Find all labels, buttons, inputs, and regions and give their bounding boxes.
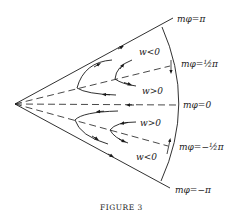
dashed-ray-zero: [15, 104, 177, 105]
trajectory-lower-small: [110, 122, 136, 143]
region-label-lower-outer: w<0: [136, 152, 157, 162]
boundary-label-lower-half: mφ=−½π: [179, 142, 225, 152]
boundary-label-top: mφ=π: [177, 14, 206, 24]
tick-lower-arc-icon: [167, 140, 170, 154]
arrow-lower-small-a-icon: [122, 123, 128, 124]
region-label-upper-outer: w<0: [139, 47, 160, 57]
region-label-lower-inner: w>0: [140, 118, 161, 128]
trajectory-upper-small: [115, 60, 136, 86]
boundary-label-zero: mφ=0: [183, 100, 211, 110]
dashed-ray-upper: [15, 66, 170, 104]
boundary-label-bottom: mφ=−π: [175, 185, 212, 195]
figure-caption: FIGURE 3: [100, 203, 143, 211]
region-label-upper-inner: w>0: [142, 86, 163, 96]
arrow-lower-small-b-icon: [119, 139, 124, 142]
outer-arc: [161, 27, 179, 181]
phase-diagram: w<0 w>0 w>0 w<0 mφ=π mφ=½π mφ=0 mφ=−½π m…: [0, 0, 234, 211]
boundary-ray-bottom: [15, 104, 170, 188]
boundary-label-upper-half: mφ=½π: [181, 59, 219, 69]
